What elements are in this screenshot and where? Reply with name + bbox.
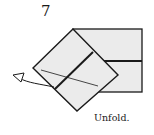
origami-diagram: [0, 0, 154, 135]
step-caption: Unfold.: [94, 112, 130, 123]
